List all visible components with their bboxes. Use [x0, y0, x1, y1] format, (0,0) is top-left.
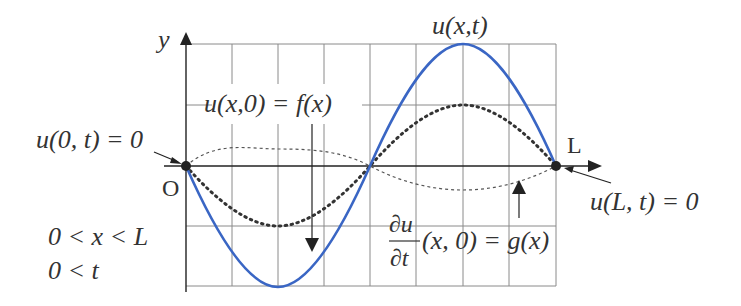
- endpoint-label: L: [567, 132, 582, 158]
- left-boundary-label: u(0, t) = 0: [36, 125, 143, 154]
- endpoint-L: [551, 161, 561, 171]
- initial-velocity-label: (x, 0) = g(x): [422, 226, 549, 255]
- wave-equation-figure: y O L u(x,t) u(x,0) = f(x) u(0, t) = 0 u…: [0, 0, 741, 306]
- origin-label: O: [162, 175, 179, 201]
- domain-x-label: 0 < x < L: [48, 222, 148, 251]
- initial-velocity-curve: [186, 147, 556, 190]
- y-axis-arrow-icon: [180, 32, 192, 45]
- x-axis-arrow-icon: [588, 160, 602, 172]
- initial-velocity-numerator: ∂u: [389, 211, 413, 237]
- domain-t-label: 0 < t: [48, 256, 100, 285]
- right-boundary-label: u(L, t) = 0: [590, 187, 699, 216]
- origin-point: [181, 161, 191, 171]
- solution-label: u(x,t): [432, 11, 488, 40]
- initial-displacement-label: u(x,0) = f(x): [204, 89, 332, 118]
- y-axis-label: y: [155, 25, 170, 54]
- initial-velocity-denominator: ∂t: [390, 245, 410, 271]
